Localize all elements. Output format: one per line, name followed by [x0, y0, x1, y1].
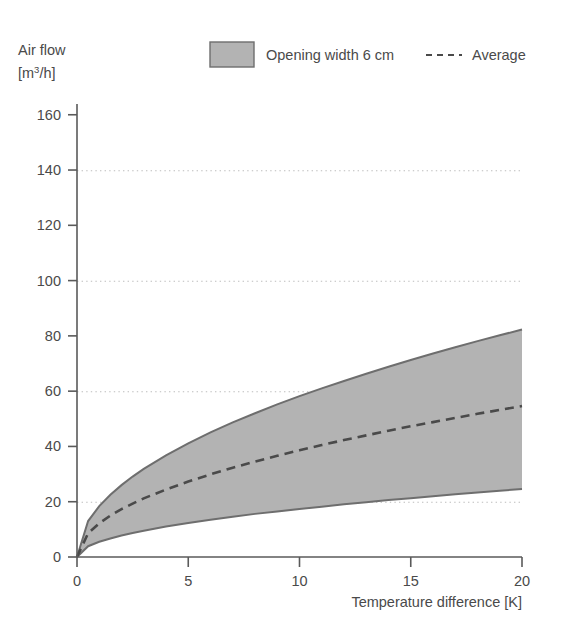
x-tick-label-15: 15 [403, 573, 419, 589]
y-axis-unit-suffix: /h] [39, 65, 55, 81]
legend-label-opening-width: Opening width 6 cm [266, 47, 394, 63]
y-axis-title-line1: Air flow [18, 42, 66, 58]
legend-label-average: Average [472, 47, 526, 63]
y-tick-label-0: 0 [53, 549, 61, 565]
air-flow-chart: Air flow [m3/h] Opening width 6 cm Avera… [0, 0, 572, 639]
x-tick-label-20: 20 [514, 573, 530, 589]
y-tick-label-80: 80 [45, 328, 61, 344]
y-tick-label-160: 160 [37, 107, 61, 123]
y-tick-label-40: 40 [45, 438, 61, 454]
x-axis-title: Temperature difference [K] [351, 594, 522, 610]
y-tick-label-60: 60 [45, 383, 61, 399]
y-tick-label-120: 120 [37, 217, 61, 233]
x-tick-label-0: 0 [73, 573, 81, 589]
y-tick-label-20: 20 [45, 494, 61, 510]
y-tick-label-100: 100 [37, 273, 61, 289]
x-tick-label-5: 5 [184, 573, 192, 589]
y-tick-label-140: 140 [37, 162, 61, 178]
x-tick-label-10: 10 [291, 573, 307, 589]
y-axis-unit-prefix: [m [18, 65, 34, 81]
legend-swatch-opening-width [210, 42, 254, 67]
